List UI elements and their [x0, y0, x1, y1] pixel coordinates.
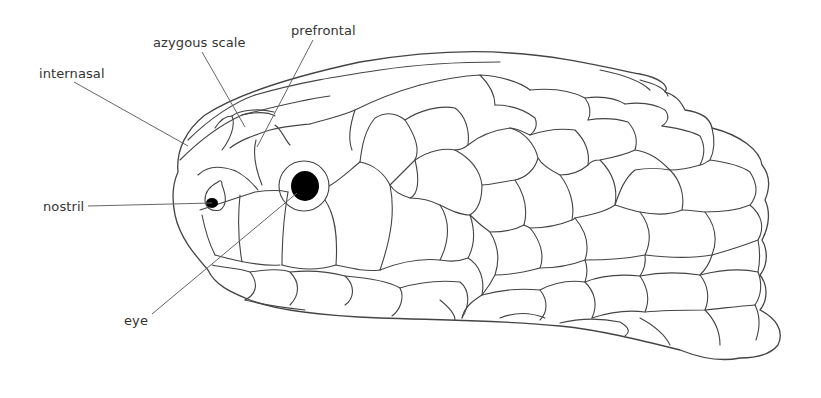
leader-eye: [152, 193, 297, 314]
leader-internasal: [74, 82, 188, 146]
leader-azygous: [202, 52, 245, 127]
label-eye: eye: [124, 313, 148, 328]
label-nostril: nostril: [43, 199, 84, 214]
leader-lines: [0, 0, 821, 398]
label-prefrontal: prefrontal: [291, 23, 356, 38]
label-azygous-scale: azygous scale: [153, 35, 246, 50]
snake-head-diagram: internasal azygous scale prefrontal nost…: [0, 0, 821, 398]
leader-prefrontal: [257, 40, 313, 147]
leader-nostril: [88, 203, 212, 206]
label-internasal: internasal: [39, 66, 105, 81]
